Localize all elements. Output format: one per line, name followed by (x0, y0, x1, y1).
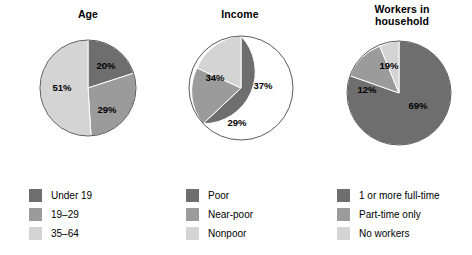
page-title-age: Age (0, 9, 176, 21)
legend-workers: 1 or more full-time Part-time only No wo… (337, 186, 440, 243)
legend-swatch-icon-workers-1 (337, 208, 350, 221)
pie-chart-age: 20% 29% 51% (38, 38, 138, 138)
legend-income: Poor Near-poor Nonpoor (186, 186, 253, 243)
legend-swatch-icon-age-2 (29, 227, 42, 240)
page-title-income: Income (160, 9, 320, 21)
legend-label-income-2: Nonpoor (208, 228, 246, 240)
legend-item-workers-2[interactable]: No workers (337, 224, 440, 243)
legend-item-age-1[interactable]: 19–29 (29, 205, 92, 224)
pie-label-age-2: 51% (52, 82, 72, 93)
pie-svg-workers: 69% 12% 19% (345, 39, 453, 147)
legend-swatch-icon-income-1 (186, 208, 199, 221)
pie-svg-income: 37% 29% 34% (187, 34, 295, 142)
legend-swatch-icon-workers-0 (337, 189, 350, 202)
chart-panel-income: Income 37% 29% 34% Poor Ne (160, 0, 320, 255)
legend-swatch-icon-age-1 (29, 208, 42, 221)
page-title-workers: Workers in household (342, 4, 462, 27)
legend-age: Under 19 19–29 35–64 (29, 186, 92, 243)
pie-chart-figure: Age 20% 29% 51% Under 19 1 (0, 0, 472, 255)
pie-label-income-0: 37% (253, 80, 273, 91)
legend-label-income-1: Near-poor (208, 209, 253, 221)
legend-label-age-2: 35–64 (51, 228, 79, 240)
legend-item-workers-0[interactable]: 1 or more full-time (337, 186, 440, 205)
legend-item-workers-1[interactable]: Part-time only (337, 205, 440, 224)
pie-chart-income: 37% 29% 34% (187, 34, 295, 142)
legend-label-workers-0: 1 or more full-time (359, 190, 440, 202)
legend-label-age-0: Under 19 (51, 190, 92, 202)
pie-label-income-1: 29% (227, 117, 247, 128)
pie-label-workers-0: 69% (408, 100, 428, 111)
legend-label-workers-2: No workers (359, 228, 410, 240)
legend-swatch-icon-income-0 (186, 189, 199, 202)
pie-label-workers-1: 12% (357, 84, 377, 95)
legend-label-age-1: 19–29 (51, 209, 79, 221)
pie-label-age-1: 29% (97, 104, 117, 115)
legend-swatch-icon-income-2 (186, 227, 199, 240)
legend-item-age-0[interactable]: Under 19 (29, 186, 92, 205)
legend-item-income-1[interactable]: Near-poor (186, 205, 253, 224)
legend-item-age-2[interactable]: 35–64 (29, 224, 92, 243)
pie-svg-age: 20% 29% 51% (38, 38, 138, 138)
legend-swatch-icon-workers-2 (337, 227, 350, 240)
legend-swatch-icon-age-0 (29, 189, 42, 202)
legend-item-income-2[interactable]: Nonpoor (186, 224, 253, 243)
legend-item-income-0[interactable]: Poor (186, 186, 253, 205)
legend-label-income-0: Poor (208, 190, 229, 202)
pie-label-income-2: 34% (205, 72, 225, 83)
pie-label-workers-2: 19% (379, 60, 399, 71)
legend-label-workers-1: Part-time only (359, 209, 421, 221)
chart-panel-age: Age 20% 29% 51% Under 19 1 (0, 0, 160, 255)
pie-chart-workers: 69% 12% 19% (345, 39, 453, 147)
pie-label-age-0: 20% (96, 60, 116, 71)
chart-panel-workers: Workers in household 69% 12% 19% 1 or mo… (320, 0, 472, 255)
